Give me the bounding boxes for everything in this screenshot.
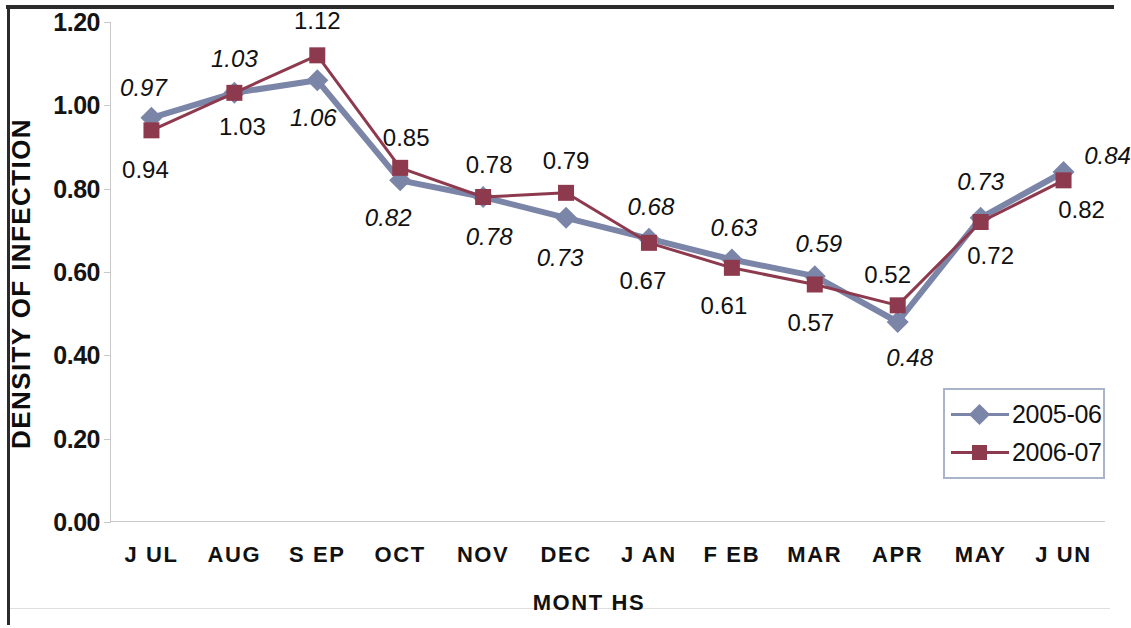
data-point-square-icon [475,189,491,205]
legend-label: 2005-06 [1012,400,1102,429]
data-value-label: 0.97 [120,74,167,102]
data-point-diamond-icon [472,186,494,208]
data-value-label: 0.67 [620,267,667,295]
data-point-diamond-icon [389,169,411,191]
y-axis-tickmark [104,272,111,273]
y-axis-tickmark [104,355,111,356]
legend-item-2006-07[interactable]: 2006-07 [951,437,1102,467]
data-value-label: 0.73 [957,168,1004,196]
y-axis-tick-label: 0.60 [8,258,100,287]
data-point-square-icon [724,260,740,276]
data-point-square-icon [558,185,574,201]
legend: 2005-06 2006-07 [943,388,1105,479]
data-point-diamond-icon [804,265,826,287]
series-line [151,55,1063,305]
data-value-label: 0.59 [795,230,842,258]
data-value-label: 0.57 [787,309,834,337]
data-value-label: 0.85 [383,124,430,152]
data-point-square-icon [143,122,159,138]
data-value-label: 1.03 [211,45,258,73]
data-value-label: 1.06 [290,104,337,132]
data-point-square-icon [226,85,242,101]
data-point-square-icon [973,214,989,230]
data-value-label: 0.82 [1058,196,1105,224]
legend-label: 2006-07 [1012,438,1102,467]
y-axis-tickmark [104,105,111,106]
data-value-label: 0.68 [628,193,675,221]
data-point-square-icon [641,235,657,251]
data-value-label: 0.63 [711,214,758,242]
legend-item-2005-06[interactable]: 2005-06 [951,399,1102,429]
y-axis-tick-label: 0.40 [8,341,100,370]
series-2006-07 [143,47,1071,313]
data-point-diamond-icon [970,207,992,229]
y-axis-tick-label: 0.20 [8,424,100,453]
data-point-square-icon [392,160,408,176]
data-point-square-icon [890,297,906,313]
data-point-diamond-icon [140,107,162,129]
y-axis-tickmark [104,22,111,23]
data-value-label: 0.73 [537,244,584,272]
data-point-square-icon [807,277,823,293]
series-line [151,80,1063,322]
data-point-diamond-icon [1053,161,1075,183]
y-axis-tick-label: 0.00 [8,508,100,537]
y-axis-tick-label: 0.80 [8,174,100,203]
data-value-label: 0.78 [466,223,513,251]
x-axis-title: MONT HS [0,590,1118,616]
legend-key-square-icon [951,440,1009,464]
y-axis-tickmark [104,522,111,523]
data-value-label: 0.48 [886,344,933,372]
data-point-diamond-icon [887,311,909,333]
data-value-label: 1.12 [294,7,341,35]
data-value-label: 0.78 [466,151,513,179]
y-axis-tick-label: 1.00 [8,91,100,120]
data-value-label: 0.84 [1084,142,1131,170]
series-2005-06 [140,69,1074,333]
data-point-diamond-icon [638,228,660,250]
x-axis-line [110,521,1105,522]
data-point-diamond-icon [223,82,245,104]
data-value-label: 0.82 [365,204,412,232]
y-axis-tickmark [104,189,111,190]
data-value-label: 0.94 [122,156,169,184]
y-axis-tick-labels: 1.201.000.800.600.400.200.00 [0,0,100,628]
data-value-label: 0.79 [543,147,590,175]
x-axis-tick-label: J UN [1009,542,1119,568]
y-axis-tickmark [104,439,111,440]
legend-key-diamond-icon [951,402,1009,426]
data-value-label: 0.61 [701,292,748,320]
data-point-diamond-icon [306,69,328,91]
data-point-square-icon [309,47,325,63]
y-axis-tick-label: 1.20 [8,8,100,37]
data-point-square-icon [1056,172,1072,188]
data-point-diamond-icon [721,249,743,271]
frame-top-border [6,5,1114,9]
data-value-label: 0.52 [864,261,911,289]
data-value-label: 0.72 [967,242,1014,270]
data-value-label: 1.03 [219,113,266,141]
data-point-diamond-icon [555,207,577,229]
